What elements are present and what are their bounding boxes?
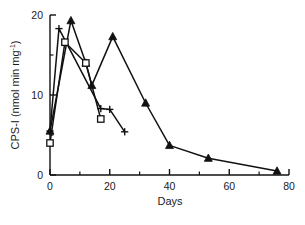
series-lines [50,21,277,171]
series-line-filled-triangle-series [50,21,277,171]
x-tick-label: 60 [223,180,235,192]
marker-square [47,140,53,146]
data-point-filled-triangle-series [67,16,75,23]
chart-figure: 020406080 01020 Days CPS-I (nmol min mg-… [0,0,305,225]
marker-triangle [109,32,117,39]
marker-triangle [67,16,75,23]
data-point-filled-triangle-series [166,141,174,148]
data-point-open-square-series [83,60,89,66]
x-tick-label: 0 [47,180,53,192]
data-point-open-square-series [98,116,104,122]
data-point-plus-series [55,25,62,32]
x-axis-label: Days [157,195,183,207]
data-point-open-square-series [47,140,53,146]
marker-triangle [142,99,150,106]
marker-triangle [166,141,174,148]
data-point-filled-triangle-series [109,32,117,39]
y-axis-label: CPS-I (nmol min mg-1) [9,41,21,150]
data-point-filled-triangle-series [142,99,150,106]
data-point-open-square-series [62,39,68,45]
y-tick-label: 10 [31,89,43,101]
y-axis-tick-labels: 01020 [31,9,43,181]
x-axis-tick-labels: 020406080 [47,180,295,192]
x-tick-label: 40 [164,180,176,192]
marker-square [98,116,104,122]
marker-square [83,60,89,66]
x-tick-label: 80 [283,180,295,192]
y-axis-label-main: CPS-I (nmol min mg [9,50,21,149]
y-tick-label: 20 [31,9,43,21]
series-markers [46,16,281,174]
cps-i-time-course-plot: 020406080 01020 Days CPS-I (nmol min mg-… [0,0,305,225]
axes [50,15,289,175]
marker-square [62,39,68,45]
y-tick-label: 0 [37,169,43,181]
x-axis-ticks [50,169,289,175]
x-tick-label: 20 [104,180,116,192]
y-axis-label-tail: ) [9,41,21,45]
